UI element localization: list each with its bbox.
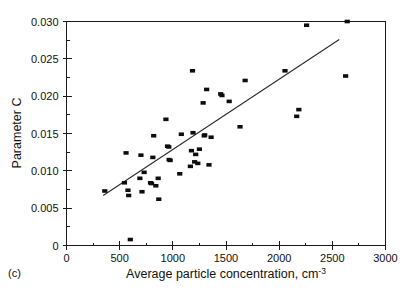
- data-point: [243, 79, 248, 83]
- data-point: [163, 118, 168, 122]
- y-tick-label: 0.020: [31, 90, 59, 102]
- data-point: [122, 181, 127, 185]
- scatter-plot: 050010001500200025003000 00.0050.0100.01…: [0, 0, 410, 294]
- x-axis-title-superscript: -3: [318, 266, 326, 276]
- data-point: [123, 151, 128, 155]
- data-point: [151, 134, 156, 138]
- y-tick-label: 0.010: [31, 165, 59, 177]
- data-point: [153, 184, 158, 188]
- data-point: [206, 163, 211, 167]
- data-point: [345, 20, 350, 24]
- data-point: [294, 115, 299, 119]
- x-axis-title: Average particle concentration, cm-3: [126, 266, 326, 281]
- data-point: [138, 153, 143, 157]
- x-axis-title-text: Average particle concentration, cm: [126, 267, 318, 281]
- y-tick-label: 0.015: [31, 128, 59, 140]
- y-tick-label: 0: [52, 240, 58, 252]
- data-point: [190, 131, 195, 135]
- data-point: [179, 132, 184, 136]
- x-tick-label: 3000: [373, 252, 397, 264]
- y-axis-title: Parameter C: [10, 98, 24, 169]
- data-point: [237, 125, 242, 129]
- panel-label: (c): [8, 267, 21, 279]
- figure-panel: 050010001500200025003000 00.0050.0100.01…: [0, 0, 410, 294]
- data-point: [282, 69, 287, 73]
- x-tick-label: 1000: [161, 252, 185, 264]
- data-point: [219, 94, 224, 98]
- data-point: [137, 177, 142, 181]
- data-point: [343, 74, 348, 78]
- data-point: [128, 238, 133, 242]
- data-point: [197, 147, 202, 151]
- data-points: [102, 20, 350, 242]
- plot-frame: [67, 22, 386, 246]
- data-point: [201, 101, 206, 105]
- data-point: [190, 69, 195, 73]
- data-point: [177, 172, 182, 176]
- data-point: [166, 145, 171, 149]
- x-axis-tick-labels: 050010001500200025003000: [63, 252, 397, 264]
- data-point: [168, 159, 173, 163]
- x-tick-label: 500: [110, 252, 128, 264]
- data-point: [156, 177, 161, 181]
- x-tick-label: 0: [63, 252, 69, 264]
- data-point: [296, 108, 301, 112]
- regression-line: [103, 39, 339, 195]
- y-tick-label: 0.025: [31, 53, 59, 65]
- x-tick-label: 2000: [267, 252, 291, 264]
- data-point: [102, 189, 107, 193]
- data-point: [156, 197, 161, 201]
- x-tick-label: 1500: [214, 252, 238, 264]
- y-tick-label: 0.005: [31, 202, 59, 214]
- data-point: [193, 153, 198, 157]
- data-point: [227, 100, 232, 104]
- data-point: [142, 171, 147, 175]
- y-tick-label: 0.030: [31, 16, 59, 28]
- data-point: [188, 165, 193, 169]
- data-point: [189, 149, 194, 153]
- data-point: [204, 88, 209, 92]
- plot-border: [67, 22, 386, 246]
- data-point: [150, 156, 155, 160]
- data-point: [304, 23, 309, 27]
- data-point: [125, 188, 130, 192]
- regression-line-segment: [103, 39, 339, 195]
- data-point: [139, 190, 144, 194]
- data-point: [209, 135, 214, 139]
- y-axis-tick-labels: 00.0050.0100.0150.0200.0250.030: [31, 16, 59, 252]
- data-point: [202, 133, 207, 137]
- x-tick-label: 2500: [320, 252, 344, 264]
- data-point: [126, 194, 131, 198]
- data-point: [195, 162, 200, 166]
